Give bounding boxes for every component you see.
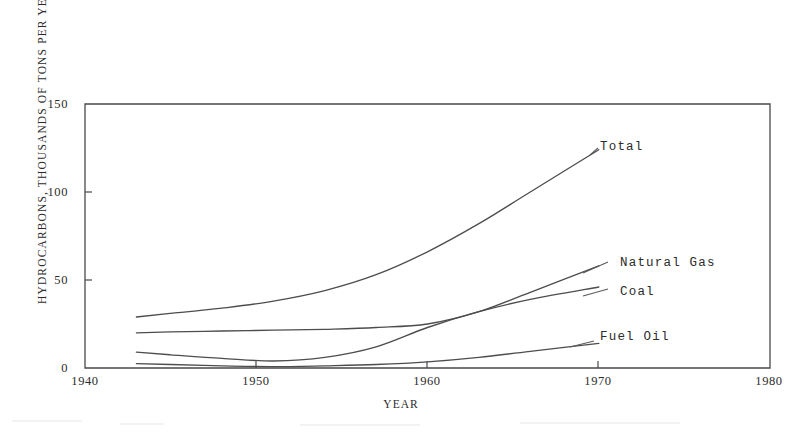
chart-canvas <box>0 0 802 432</box>
series-curve-coal <box>136 287 598 361</box>
leader-coal <box>583 289 608 296</box>
plot-frame <box>85 104 770 368</box>
leader-natural-gas <box>583 262 608 273</box>
line-chart-figure: HYDROCARBONS, THOUSANDS OF TONS PER YEAR… <box>0 0 802 432</box>
series-curve-fuel-oil <box>136 343 598 366</box>
